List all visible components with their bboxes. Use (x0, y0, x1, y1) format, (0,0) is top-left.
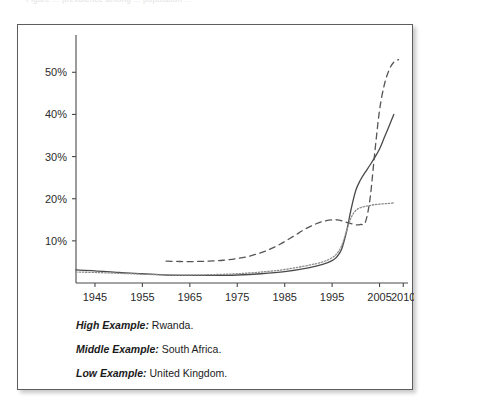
svg-text:20%: 20% (45, 193, 67, 205)
cut-off-caption-strip: Figure ... prevalence among ... populati… (0, 0, 479, 9)
svg-text:10%: 10% (45, 235, 67, 247)
line-chart-svg: 10%20%30%40%50% 194519551965197519851995… (18, 25, 414, 317)
legend-low-key: Low Example: (76, 367, 147, 379)
legend-item-high: High Example: Rwanda. (76, 319, 406, 332)
figure-legend: High Example: Rwanda. Middle Example: So… (76, 319, 406, 391)
series-line-united-kingdom (76, 203, 394, 275)
series-line-rwanda (166, 60, 398, 262)
svg-text:2005: 2005 (367, 291, 391, 303)
svg-text:50%: 50% (45, 66, 67, 78)
y-axis-tick-labels: 10%20%30%40%50% (45, 66, 67, 247)
svg-text:2010: 2010 (391, 291, 414, 303)
legend-low-value: United Kingdom. (150, 367, 228, 379)
svg-text:30%: 30% (45, 151, 67, 163)
series-lines (76, 60, 399, 276)
figure-panel: 10%20%30%40%50% 194519551965197519851995… (17, 24, 413, 390)
y-axis-tick-marks (72, 72, 76, 241)
svg-text:1995: 1995 (320, 291, 344, 303)
legend-item-middle: Middle Example: South Africa. (76, 343, 406, 356)
svg-text:40%: 40% (45, 108, 67, 120)
svg-text:1955: 1955 (130, 291, 154, 303)
cut-off-caption-text: Figure ... prevalence among ... populati… (26, 0, 192, 4)
legend-middle-value: South Africa. (162, 343, 222, 355)
svg-text:1985: 1985 (272, 291, 296, 303)
svg-text:1975: 1975 (225, 291, 249, 303)
legend-middle-key: Middle Example: (76, 343, 159, 355)
svg-text:1945: 1945 (83, 291, 107, 303)
x-axis-tick-labels: 19451955196519751985199520052010 (83, 291, 414, 303)
x-axis-tick-marks (95, 283, 403, 287)
legend-item-low: Low Example: United Kingdom. (76, 367, 406, 380)
legend-high-value: Rwanda. (152, 319, 193, 331)
series-line-south-africa (76, 114, 394, 275)
chart-plot-area: 10%20%30%40%50% 194519551965197519851995… (18, 25, 414, 317)
legend-high-key: High Example: (76, 319, 149, 331)
svg-text:1965: 1965 (178, 291, 202, 303)
